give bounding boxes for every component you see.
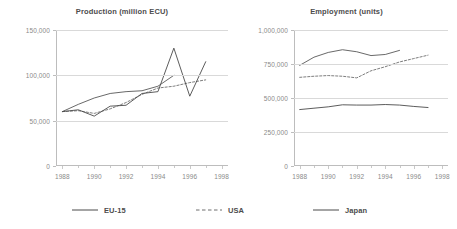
series-line-employment-japan <box>300 105 428 110</box>
x-tick-mark-employment-1995 <box>400 166 401 168</box>
x-tick-label-production-1996: 1996 <box>182 173 197 180</box>
chart-panel-production: Production (million ECU) 050,000100,0001… <box>8 0 236 190</box>
x-tick-mark-employment-1991 <box>342 166 343 168</box>
series-line-employment-eu-15 <box>300 50 400 66</box>
gridline-employment-750000 <box>294 64 448 65</box>
chart-title-production: Production (million ECU) <box>8 7 236 16</box>
chart-title-employment: Employment (units) <box>236 7 457 16</box>
gridline-employment-250000 <box>294 132 448 133</box>
legend-item-japan: Japan <box>313 200 367 220</box>
x-tick-label-production-1990: 1990 <box>87 173 102 180</box>
x-tick-label-employment-1992: 1992 <box>349 173 364 180</box>
x-tick-mark-production-1998 <box>222 166 223 169</box>
y-tick-label-production-150000: 150,000 <box>26 27 50 34</box>
y-tick-mark-employment-0 <box>291 166 294 167</box>
gridline-employment-500000 <box>294 98 448 99</box>
x-tick-label-employment-1988: 1988 <box>292 173 307 180</box>
series-line-production-japan <box>62 48 205 116</box>
y-tick-label-employment-1000000: 1,000,000 <box>258 27 288 34</box>
x-tick-mark-production-1992 <box>126 166 127 169</box>
x-tick-label-production-1998: 1998 <box>214 173 229 180</box>
x-tick-label-employment-1990: 1990 <box>321 173 336 180</box>
x-tick-mark-production-1997 <box>206 166 207 168</box>
y-tick-label-production-0: 0 <box>46 163 50 170</box>
charts-figure: Production (million ECU) 050,000100,0001… <box>0 0 457 229</box>
plot-area-employment: 0250,000500,000750,0001,000,000198819901… <box>294 30 448 166</box>
legend-swatch-japan-icon <box>313 206 339 214</box>
x-tick-mark-production-1995 <box>174 166 175 168</box>
y-tick-label-employment-250000: 250,000 <box>264 129 288 136</box>
x-tick-mark-employment-1989 <box>314 166 315 168</box>
x-tick-label-employment-1998: 1998 <box>435 173 450 180</box>
x-tick-mark-production-1994 <box>158 166 159 169</box>
legend-label-usa: USA <box>228 206 244 215</box>
gridline-production-100000 <box>56 75 228 76</box>
x-tick-mark-employment-1990 <box>328 166 329 169</box>
y-tick-mark-production-150000 <box>53 30 56 31</box>
x-tick-mark-production-1993 <box>142 166 143 168</box>
x-tick-mark-employment-1994 <box>385 166 386 169</box>
x-tick-mark-employment-1996 <box>414 166 415 169</box>
y-tick-label-production-50000: 50,000 <box>30 117 50 124</box>
x-tick-mark-production-1988 <box>62 166 63 169</box>
x-tick-label-production-1988: 1988 <box>55 173 70 180</box>
y-tick-mark-employment-250000 <box>291 132 294 133</box>
legend-item-eu-15: EU-15 <box>72 200 126 220</box>
x-tick-mark-production-1996 <box>190 166 191 169</box>
x-tick-label-employment-1994: 1994 <box>378 173 393 180</box>
legend-item-usa: USA <box>196 200 244 220</box>
x-tick-mark-production-1989 <box>78 166 79 168</box>
plot-wrap-production: 050,000100,000150,0001988199019921994199… <box>56 30 228 166</box>
x-tick-label-production-1992: 1992 <box>119 173 134 180</box>
y-tick-mark-production-100000 <box>53 75 56 76</box>
plot-area-production: 050,000100,000150,0001988199019921994199… <box>56 30 228 166</box>
gridline-production-50000 <box>56 121 228 122</box>
legend-label-japan: Japan <box>345 206 367 215</box>
gridline-employment-1000000 <box>294 30 448 31</box>
x-tick-label-production-1994: 1994 <box>150 173 165 180</box>
x-tick-mark-production-1990 <box>94 166 95 169</box>
x-tick-mark-employment-1998 <box>442 166 443 169</box>
x-tick-mark-employment-1993 <box>371 166 372 168</box>
y-tick-label-employment-500000: 500,000 <box>264 95 288 102</box>
y-tick-mark-employment-1000000 <box>291 30 294 31</box>
y-tick-label-production-100000: 100,000 <box>26 72 50 79</box>
y-tick-label-employment-750000: 750,000 <box>264 61 288 68</box>
chart-legend: EU-15 USA Japan <box>0 200 457 220</box>
gridline-production-150000 <box>56 30 228 31</box>
chart-panel-employment: Employment (units) 0250,000500,000750,00… <box>236 0 457 190</box>
y-tick-mark-production-0 <box>53 166 56 167</box>
plot-wrap-employment: 0250,000500,000750,0001,000,000198819901… <box>294 30 448 166</box>
y-tick-mark-employment-500000 <box>291 98 294 99</box>
y-tick-label-employment-0: 0 <box>284 163 288 170</box>
x-tick-label-employment-1996: 1996 <box>406 173 421 180</box>
x-tick-mark-employment-1988 <box>300 166 301 169</box>
x-tick-mark-employment-1992 <box>357 166 358 169</box>
series-container-production <box>56 30 228 166</box>
y-tick-mark-employment-750000 <box>291 64 294 65</box>
legend-swatch-eu-15-icon <box>72 206 98 214</box>
legend-swatch-usa-icon <box>196 206 222 214</box>
y-tick-mark-production-50000 <box>53 121 56 122</box>
series-line-employment-usa <box>300 55 428 78</box>
series-line-production-usa <box>62 80 205 114</box>
x-tick-mark-production-1991 <box>110 166 111 168</box>
legend-label-eu-15: EU-15 <box>104 206 126 215</box>
x-tick-mark-employment-1997 <box>428 166 429 168</box>
